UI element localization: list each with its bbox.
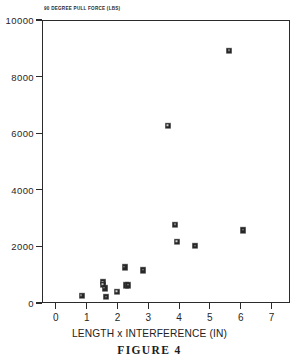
x-axis-tick: [86, 303, 87, 309]
x-axis-tick: [209, 303, 210, 309]
x-axis-tick-label: 4: [169, 312, 189, 323]
y-axis-tick: [36, 302, 42, 303]
data-point: [126, 283, 131, 289]
data-point: [104, 294, 109, 300]
data-point: [227, 48, 232, 54]
x-axis-tick-label: 6: [231, 312, 251, 323]
x-axis-tick: [148, 303, 149, 309]
y-axis-tick-label: 10000: [0, 15, 34, 26]
x-axis-tick: [117, 303, 118, 309]
data-point: [141, 267, 146, 273]
y-axis-tick-label: 4000: [0, 184, 34, 195]
y-axis-tick-label: 6000: [0, 128, 34, 139]
x-axis-tick-label: 7: [262, 312, 282, 323]
chart-title: 90 DEGREE PULL FORCE (LBS): [44, 5, 120, 11]
figure-caption: FIGURE 4: [0, 344, 299, 356]
x-axis-tick-label: 3: [138, 312, 158, 323]
y-axis-tick: [36, 19, 42, 20]
scatter-data-layer: [43, 21, 289, 302]
data-point: [79, 293, 84, 299]
y-axis-tick-label: 2000: [0, 241, 34, 252]
data-point: [175, 239, 180, 245]
x-axis-tick-label: 5: [200, 312, 220, 323]
plot-frame: [42, 20, 290, 303]
x-axis-tick: [240, 303, 241, 309]
x-axis-tick-label: 2: [107, 312, 127, 323]
data-point: [193, 243, 198, 249]
data-point: [241, 228, 246, 234]
data-point: [102, 285, 107, 291]
y-axis-tick: [36, 133, 42, 134]
x-axis-tick: [271, 303, 272, 309]
y-axis-tick: [36, 189, 42, 190]
x-axis-tick-label: 1: [77, 312, 97, 323]
data-point: [173, 222, 178, 228]
x-axis-title: LENGTH x INTERFERENCE (IN): [0, 328, 299, 339]
data-point: [114, 289, 119, 295]
data-point: [122, 265, 127, 271]
y-axis-tick-label: 8000: [0, 71, 34, 82]
y-axis-tick: [36, 76, 42, 77]
figure-root: 90 DEGREE PULL FORCE (LBS) 0200040006000…: [0, 0, 299, 359]
x-axis-tick: [179, 303, 180, 309]
x-axis-tick-label: 0: [46, 312, 66, 323]
y-axis-tick-label: 0: [0, 298, 34, 309]
y-axis-tick: [36, 246, 42, 247]
data-point: [165, 123, 170, 129]
x-axis-tick: [55, 303, 56, 309]
